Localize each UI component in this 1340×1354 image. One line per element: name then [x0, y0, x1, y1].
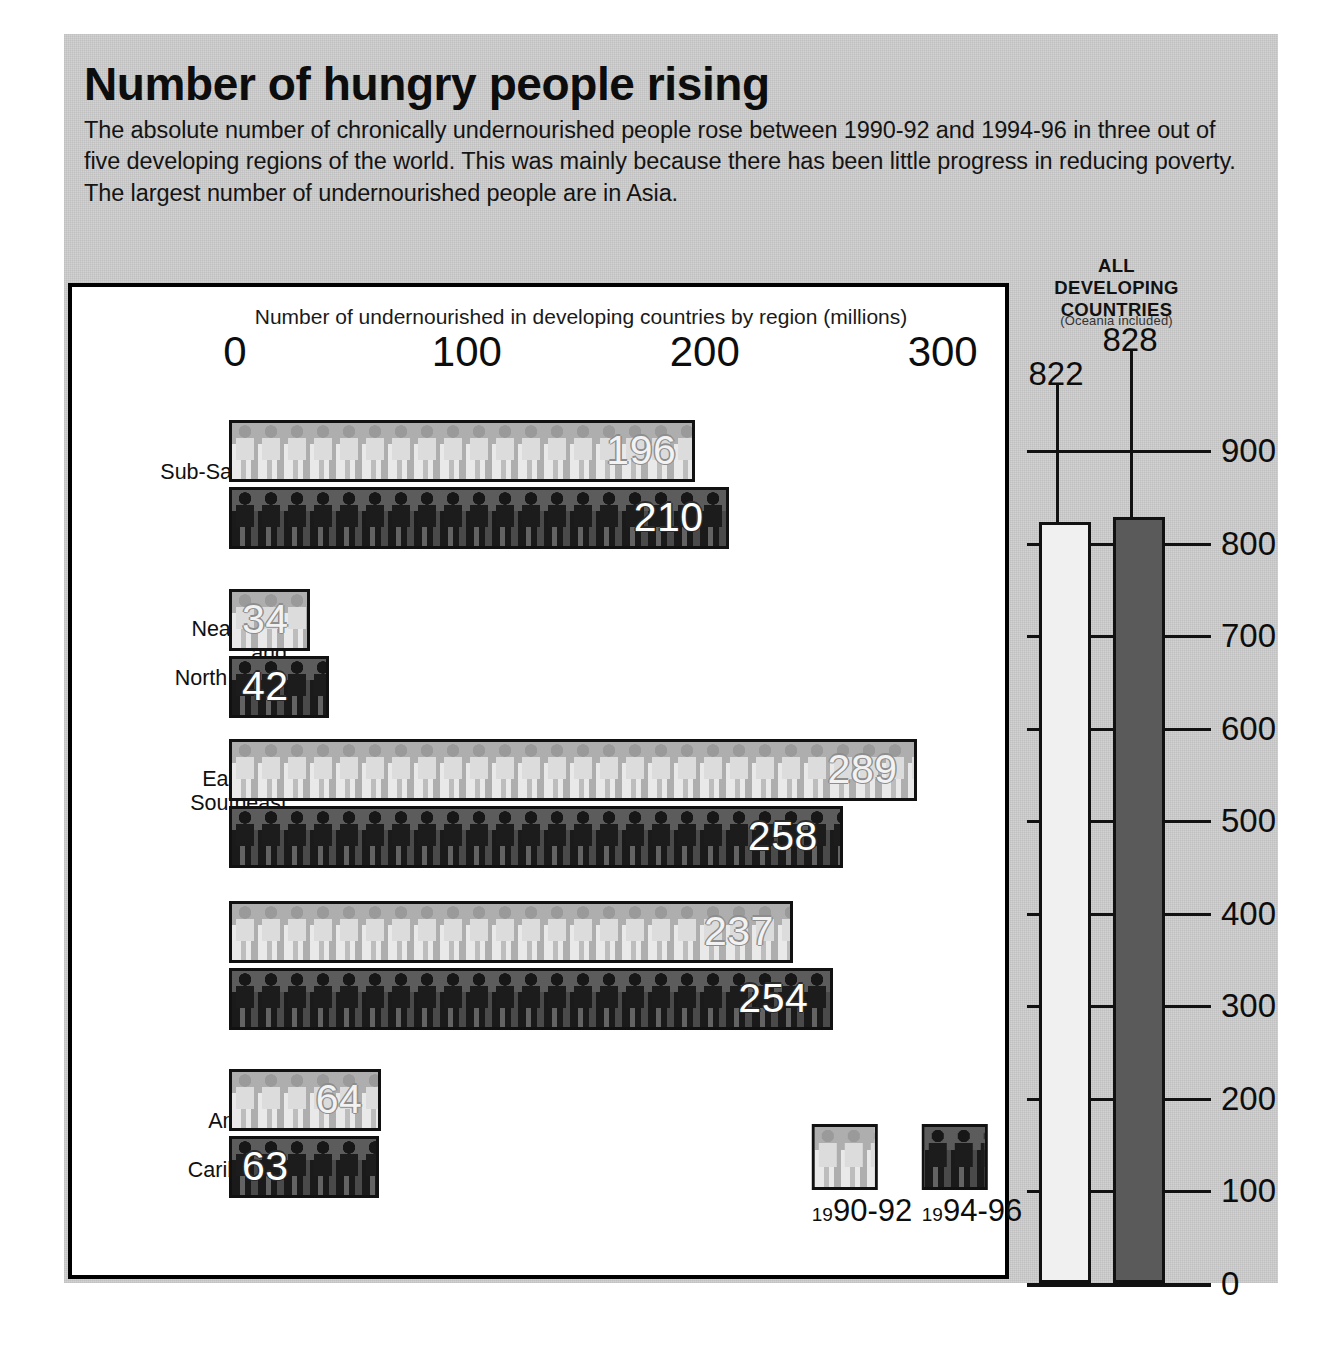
right-panel-baseline	[1027, 1283, 1211, 1287]
headline-block: Number of hungry people rising The absol…	[84, 60, 1264, 209]
bar-value-label: 210	[634, 497, 704, 538]
legend-label-1994-96: 1994-96	[922, 1195, 1022, 1226]
bar-value-label: 34	[242, 599, 289, 640]
right-panel-value-1990-92: 822	[1028, 357, 1083, 390]
person-body-icon	[815, 1143, 875, 1167]
x-axis-tick-100: 100	[432, 331, 502, 373]
bar-1990-92: 289	[229, 739, 917, 801]
chart-legend: 1990-921994-96	[72, 1124, 1013, 1244]
y-axis-tick-0: 0	[1221, 1267, 1239, 1300]
bar-value-label: 237	[704, 911, 774, 952]
right-panel-title-line-1: ALL	[1009, 255, 1224, 277]
y-gridline-900	[1027, 450, 1211, 453]
all-developing-countries-panel: ALL DEVELOPING COUNTRIES (Oceania includ…	[1009, 255, 1278, 1283]
person-body-icon	[925, 1143, 985, 1167]
bar-1990-92: 34	[229, 589, 310, 651]
bar-1990-92: 237	[229, 901, 793, 963]
legend-item-1994-96: 1994-96	[922, 1124, 1022, 1226]
bar-value-label: 64	[316, 1079, 363, 1120]
right-panel-plot: 9008007006005004003002001000822828	[1009, 335, 1278, 1283]
value-leader-line-1994-96	[1130, 349, 1133, 517]
legend-label-1990-92: 1990-92	[812, 1195, 912, 1226]
legend-swatch-1994-96	[922, 1124, 988, 1190]
x-axis-tick-labels: 0100200300	[72, 331, 1013, 379]
legend-label-years: 90-92	[833, 1193, 912, 1228]
legend-item-1990-92: 1990-92	[812, 1124, 912, 1226]
chart-caption: Number of undernourished in developing c…	[186, 305, 976, 329]
right-panel-title-line-2: DEVELOPING	[1009, 277, 1224, 299]
headline-deck: The absolute number of chronically under…	[84, 115, 1254, 209]
y-axis-tick-200: 200	[1221, 1081, 1276, 1114]
bar-1994-96: 210	[229, 487, 729, 549]
bar-value-label: 289	[828, 749, 898, 790]
x-axis-tick-0: 0	[223, 331, 246, 373]
bar-1990-92: 64	[229, 1069, 381, 1131]
y-axis-tick-100: 100	[1221, 1174, 1276, 1207]
right-panel-bar-1994-96	[1113, 517, 1165, 1283]
bar-value-label: 258	[748, 816, 818, 857]
y-axis-tick-700: 700	[1221, 619, 1276, 652]
legend-swatch-1990-92	[812, 1124, 878, 1190]
bar-value-label: 196	[606, 430, 676, 471]
x-axis-tick-200: 200	[670, 331, 740, 373]
y-axis-tick-300: 300	[1221, 989, 1276, 1022]
bar-1990-92: 196	[229, 420, 695, 482]
y-axis-tick-400: 400	[1221, 896, 1276, 929]
right-panel-value-1994-96: 828	[1102, 323, 1157, 356]
main-chart-panel: Number of undernourished in developing c…	[68, 283, 1009, 1279]
legend-label-prefix: 19	[922, 1204, 943, 1225]
legend-label-prefix: 19	[812, 1204, 833, 1225]
y-axis-tick-600: 600	[1221, 711, 1276, 744]
person-head-icon	[815, 1129, 875, 1142]
x-axis-tick-300: 300	[908, 331, 978, 373]
right-panel-title: ALL DEVELOPING COUNTRIES	[1009, 255, 1224, 320]
y-axis-tick-900: 900	[1221, 434, 1276, 467]
bar-1994-96: 254	[229, 968, 833, 1030]
bar-value-label: 42	[242, 666, 289, 707]
page-title: Number of hungry people rising	[84, 60, 1264, 109]
value-leader-line-1990-92	[1056, 383, 1059, 522]
person-body-icon	[232, 757, 914, 779]
bar-1994-96: 42	[229, 656, 329, 718]
bar-1994-96: 258	[229, 806, 843, 868]
bar-value-label: 254	[738, 978, 808, 1019]
person-head-icon	[925, 1129, 985, 1142]
right-panel-bar-1990-92	[1039, 522, 1091, 1283]
y-axis-tick-800: 800	[1221, 526, 1276, 559]
infographic-page: Number of hungry people rising The absol…	[0, 0, 1340, 1354]
y-axis-tick-500: 500	[1221, 804, 1276, 837]
person-head-icon	[232, 744, 914, 756]
